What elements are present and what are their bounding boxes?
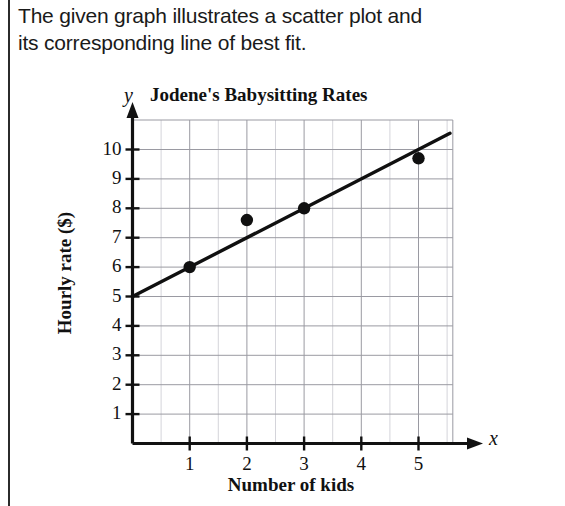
y-tick-label: 5 [96, 285, 122, 307]
x-tick-label: 2 [237, 453, 257, 475]
data-point [298, 202, 310, 214]
y-tick-label: 2 [96, 373, 122, 395]
data-point [184, 261, 196, 273]
data-point [412, 152, 424, 164]
data-point [241, 214, 253, 226]
y-tick-label: 1 [96, 402, 122, 424]
y-tick-label: 8 [96, 196, 122, 218]
plot-canvas [0, 0, 565, 506]
axis-lines [127, 102, 484, 450]
grid-minor-lines [161, 120, 453, 444]
y-tick-label: 6 [96, 255, 122, 277]
x-tick-label: 1 [180, 453, 200, 475]
worksheet-page: The given graph illustrates a scatter pl… [0, 0, 565, 506]
y-tick-label: 9 [96, 167, 122, 189]
x-tick-label: 3 [294, 453, 314, 475]
y-tick-label: 10 [96, 138, 122, 160]
y-tick-label: 4 [96, 314, 122, 336]
grid-major-lines [133, 120, 453, 414]
axis-ticks [126, 150, 419, 451]
line-of-best-fit [133, 133, 450, 296]
y-tick-label: 7 [96, 226, 122, 248]
scatter-plot-figure: Jodene's Babysitting Rates y x Hourly ra… [0, 0, 565, 506]
x-tick-label: 5 [409, 453, 429, 475]
y-tick-label: 3 [96, 343, 122, 365]
x-tick-label: 4 [351, 453, 371, 475]
